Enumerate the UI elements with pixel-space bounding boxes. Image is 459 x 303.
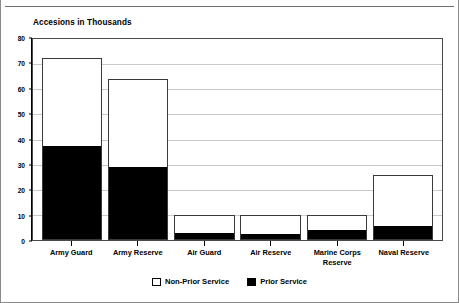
bar-slot — [373, 39, 433, 240]
y-axis-tick-label: 10 — [18, 212, 25, 219]
legend-item: Prior Service — [247, 277, 307, 286]
bar-slot — [42, 39, 102, 240]
x-tick-slot — [107, 241, 168, 246]
x-axis-labels: Army GuardArmy ReserveAir GuardAir Reser… — [32, 248, 443, 267]
x-axis-label-line: Army Reserve — [107, 248, 168, 258]
x-axis-category-label: Marine CorpsReserve — [307, 248, 368, 267]
header-divider — [5, 6, 454, 7]
x-axis-label-line: Army Guard — [41, 248, 102, 258]
bar-segment-prior-service — [175, 233, 233, 239]
x-axis-label-line: Air Reserve — [240, 248, 301, 258]
y-axis-tick-label: 20 — [18, 187, 25, 194]
legend-swatch-non-prior-service — [152, 278, 161, 286]
chart-title: Accesions in Thousands — [33, 18, 132, 27]
x-tick-slot — [41, 241, 102, 246]
bar-slot — [307, 39, 367, 240]
x-tick-slot — [307, 241, 368, 246]
bar-slot — [108, 39, 168, 240]
bar-segment-non-prior-service — [175, 216, 233, 233]
x-axis-category-label: Air Guard — [174, 248, 235, 267]
x-axis-tick-mark — [337, 241, 338, 246]
x-axis-tick-mark — [71, 241, 72, 246]
x-axis-label-line: Marine Corps — [307, 248, 368, 258]
stacked-bar — [108, 79, 168, 240]
x-axis-category-label: Air Reserve — [240, 248, 301, 267]
x-axis-tick-mark — [403, 241, 404, 246]
y-axis-tick-label: 0 — [21, 238, 25, 245]
bar-segment-non-prior-service — [43, 59, 101, 146]
y-axis-tick-label: 40 — [18, 136, 25, 143]
x-axis-category-label: Army Reserve — [107, 248, 168, 267]
bar-group — [33, 39, 442, 240]
y-axis-tick-label: 70 — [18, 60, 25, 67]
x-tick-slot — [240, 241, 301, 246]
bar-segment-prior-service — [308, 230, 366, 239]
x-axis-tick-mark — [270, 241, 271, 246]
x-axis-category-label: Army Guard — [41, 248, 102, 267]
plot-area — [32, 38, 443, 241]
bar-segment-non-prior-service — [374, 176, 432, 226]
stacked-bar — [373, 175, 433, 240]
legend-label: Non-Prior Service — [165, 277, 229, 286]
bar-segment-non-prior-service — [241, 216, 299, 235]
bar-segment-prior-service — [374, 226, 432, 239]
bar-slot — [240, 39, 300, 240]
chart-legend: Non-Prior ServicePrior Service — [1, 277, 458, 286]
bar-segment-non-prior-service — [308, 216, 366, 230]
x-axis-ticks — [32, 241, 443, 246]
stacked-bar — [307, 215, 367, 240]
x-tick-slot — [373, 241, 434, 246]
stacked-bar — [174, 215, 234, 240]
bar-segment-prior-service — [241, 234, 299, 239]
bar-segment-prior-service — [109, 167, 167, 239]
legend-label: Prior Service — [260, 277, 307, 286]
x-axis-label-line: Air Guard — [174, 248, 235, 258]
x-axis-label-line: Reserve — [307, 258, 368, 268]
stacked-bar — [42, 58, 102, 240]
x-axis-tick-mark — [137, 241, 138, 246]
x-axis-tick-mark — [204, 241, 205, 246]
x-axis-category-label: Naval Reserve — [373, 248, 434, 267]
bar-segment-prior-service — [43, 146, 101, 239]
bar-slot — [174, 39, 234, 240]
y-axis-tick-label: 60 — [18, 85, 25, 92]
legend-item: Non-Prior Service — [152, 277, 229, 286]
y-axis-tick-label: 80 — [18, 35, 25, 42]
y-axis-tick-label: 50 — [18, 111, 25, 118]
legend-swatch-prior-service — [247, 278, 256, 286]
x-tick-slot — [174, 241, 235, 246]
y-axis-tick-label: 30 — [18, 161, 25, 168]
stacked-bar — [240, 215, 300, 240]
bar-segment-non-prior-service — [109, 80, 167, 167]
x-axis-label-line: Naval Reserve — [373, 248, 434, 258]
chart-figure: Accesions in Thousands 80706050403020100… — [0, 0, 459, 303]
